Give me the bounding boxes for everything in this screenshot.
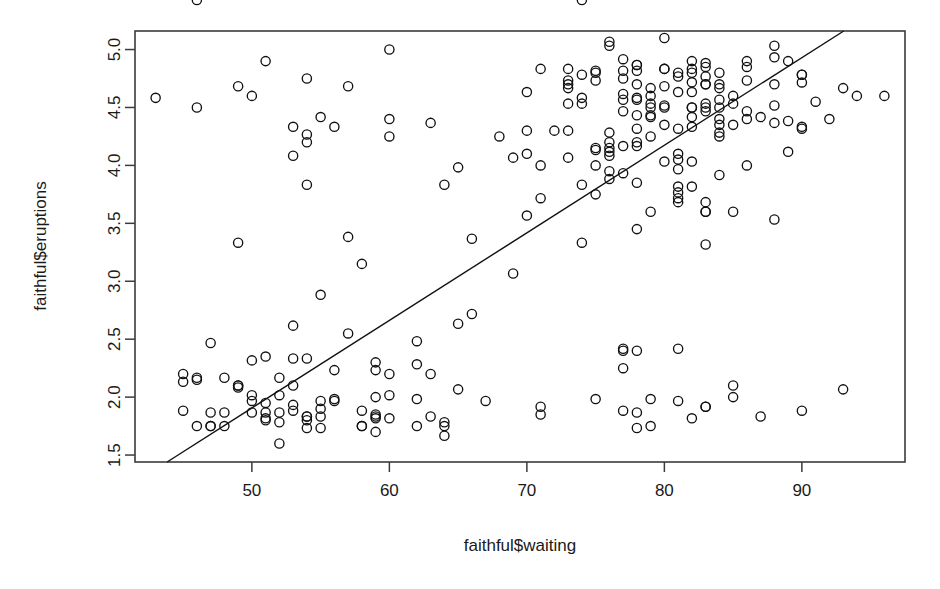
data-point-circle	[839, 385, 848, 394]
data-point-circle	[385, 369, 394, 378]
plot-frame	[135, 31, 905, 462]
data-point-circle	[687, 103, 696, 112]
data-point-circle	[784, 116, 793, 125]
data-point-circle	[247, 91, 256, 100]
data-point-circle	[660, 33, 669, 42]
data-point-circle	[701, 198, 710, 207]
data-point-circle	[756, 412, 765, 421]
scatter-plot-figure: 5060708090 1.52.02.53.03.54.04.55.0 fait…	[0, 0, 940, 589]
data-point-circle	[316, 423, 325, 432]
y-tick-label: 4.5	[106, 96, 125, 120]
x-tick-label: 90	[792, 481, 811, 500]
data-point-circle	[261, 352, 270, 361]
data-point-circle	[632, 80, 641, 89]
x-axis-ticks: 5060708090	[242, 462, 811, 500]
data-point-circle	[192, 421, 201, 430]
data-point-circle	[412, 394, 421, 403]
data-point-circle	[577, 238, 586, 247]
data-point-circle	[660, 120, 669, 129]
data-point-circle	[811, 97, 820, 106]
data-point-circle	[151, 93, 160, 102]
data-point-circle	[467, 234, 476, 243]
data-point-circle	[275, 439, 284, 448]
x-tick-label: 50	[242, 481, 261, 500]
y-axis-title: faithful$eruptions	[31, 181, 50, 310]
data-point-circle	[481, 396, 490, 405]
data-point-circle	[701, 240, 710, 249]
data-point-circle	[302, 74, 311, 83]
data-point-circle	[742, 161, 751, 170]
data-point-circle	[371, 393, 380, 402]
data-point-circle	[206, 421, 215, 430]
data-point-circle	[357, 259, 366, 268]
data-point-circle	[412, 421, 421, 430]
data-point-circle	[784, 57, 793, 66]
data-point-circle	[289, 354, 298, 363]
data-point-circle	[632, 346, 641, 355]
data-point-circle	[770, 53, 779, 62]
data-point-circle	[674, 165, 683, 174]
data-point-circle	[577, 180, 586, 189]
data-point-circle	[536, 194, 545, 203]
data-point-circle	[426, 412, 435, 421]
data-point-circle	[192, 103, 201, 112]
data-point-circle	[646, 207, 655, 216]
data-point-circle	[660, 157, 669, 166]
data-point-circle	[344, 329, 353, 338]
data-point-circle	[674, 344, 683, 353]
data-point-circle	[687, 122, 696, 131]
data-point-circle	[509, 153, 518, 162]
data-point-circle	[591, 190, 600, 199]
data-point-circle	[646, 394, 655, 403]
data-point-circle	[247, 356, 256, 365]
data-point-circle	[729, 207, 738, 216]
data-point-circle	[742, 57, 751, 66]
data-point-circle	[880, 91, 889, 100]
data-point-circle	[687, 182, 696, 191]
data-point-circle	[440, 431, 449, 440]
data-point-circle	[522, 126, 531, 135]
data-point-circle	[619, 406, 628, 415]
data-point-circle	[289, 122, 298, 131]
data-point-circle	[770, 80, 779, 89]
data-point-circle	[275, 391, 284, 400]
data-point-circle	[316, 112, 325, 121]
data-point-circle	[770, 118, 779, 127]
data-point-circle	[302, 180, 311, 189]
y-tick-label: 1.5	[106, 443, 125, 467]
data-point-circle	[234, 82, 243, 91]
data-point-circle	[220, 408, 229, 417]
data-point-circle	[674, 396, 683, 405]
data-point-circle	[564, 99, 573, 108]
data-point-circle	[385, 132, 394, 141]
data-point-circle	[509, 269, 518, 278]
data-point-circle	[385, 45, 394, 54]
data-point-circle	[454, 319, 463, 328]
data-point-circle	[619, 89, 628, 98]
data-point-circle	[440, 180, 449, 189]
data-point-circle	[577, 70, 586, 79]
data-point-circle	[454, 385, 463, 394]
data-point-circle	[632, 124, 641, 133]
y-tick-label: 3.5	[106, 212, 125, 236]
data-point-circle	[742, 76, 751, 85]
data-point-circle	[660, 82, 669, 91]
data-point-circle	[632, 423, 641, 432]
data-point-circle	[426, 118, 435, 127]
data-point-circle	[701, 402, 710, 411]
data-point-circle	[660, 64, 669, 73]
data-point-circle	[426, 369, 435, 378]
data-point-circle	[674, 124, 683, 133]
data-point-circle	[729, 393, 738, 402]
data-point-circle	[206, 338, 215, 347]
data-point-circle	[687, 157, 696, 166]
y-tick-label: 2.0	[106, 385, 125, 409]
data-point-circle	[687, 78, 696, 87]
data-point-circle	[632, 408, 641, 417]
data-point-circle	[729, 381, 738, 390]
data-point-circle	[316, 290, 325, 299]
data-point-circle	[357, 406, 366, 415]
data-point-circle	[756, 112, 765, 121]
data-point-circle	[632, 60, 641, 69]
data-point-circle	[302, 354, 311, 363]
